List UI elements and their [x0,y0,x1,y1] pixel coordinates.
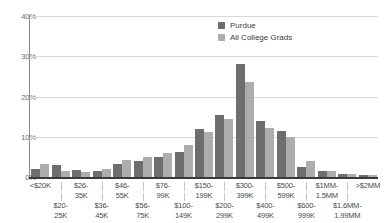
x-axis-tick-labels: <$20K$20-25K$26-35K$36-45K$46-55K$56-75K… [30,181,378,223]
bar[interactable] [184,145,193,177]
x-axis-tick-label: $600-999K [283,201,329,220]
x-axis-tick-label: >$2MM [345,181,385,191]
x-axis-tick-label: $1MM-1.5MM [304,181,350,200]
x-axis-tick-label-line: 45K [79,211,125,221]
bar[interactable] [102,169,111,177]
bar-group[interactable] [337,16,357,177]
legend-entry-purdue: Purdue [218,20,292,31]
x-axis-tick-label: $20-25K [38,201,84,220]
bar[interactable] [265,128,274,177]
x-axis-tick-label-line: $300- [222,181,268,191]
x-axis-tick-label: $500-599K [263,181,309,200]
bar[interactable] [306,161,315,177]
bar[interactable] [122,160,131,177]
x-axis-tick-label-line: $400- [242,201,288,211]
x-axis-tick-label-line: $36- [79,201,125,211]
bar-group[interactable] [71,16,91,177]
bar[interactable] [286,137,295,177]
x-axis-tick-label-line: 199K [181,191,227,201]
x-axis-tick-mark [347,193,348,201]
x-axis-tick-label-line: 35K [58,191,104,201]
bar[interactable] [81,172,90,177]
bar[interactable] [224,119,233,177]
bar[interactable] [338,174,347,177]
bar[interactable] [297,167,306,177]
bar[interactable] [93,171,102,177]
x-axis-tick-label: $46-55K [99,181,145,200]
bar[interactable] [277,131,286,177]
bar[interactable] [215,115,224,177]
x-axis-tick-label-line: >$2MM [345,181,385,191]
x-axis-tick-label-line: $200- [201,201,247,211]
legend-entry-all-college-grads: All College Grads [218,32,292,43]
bar[interactable] [256,121,265,177]
x-axis-tick-label-line: $150- [181,181,227,191]
x-axis-tick-label: $56-75K [120,201,166,220]
legend-swatch-icon [218,34,225,41]
x-axis-tick-label-line: $100- [161,201,207,211]
x-axis-baseline [29,177,378,179]
bar[interactable] [359,175,368,177]
x-axis-tick-label-line: $20- [38,201,84,211]
bar-group[interactable] [30,16,50,177]
legend-swatch-icon [218,22,225,29]
x-axis-tick-label: $100-149K [161,201,207,220]
bar[interactable] [195,129,204,177]
plot-area [30,16,378,177]
x-axis-tick-label-line: 75K [120,211,166,221]
bar-group[interactable] [296,16,316,177]
bar[interactable] [318,171,327,177]
bar[interactable] [154,157,163,177]
x-axis-tick-label-line: 149K [161,211,207,221]
x-axis-tick-label: $36-45K [79,201,125,220]
bar[interactable] [61,171,70,177]
bar-group[interactable] [50,16,70,177]
x-axis-tick-label: $26-35K [58,181,104,200]
bar[interactable] [236,64,245,177]
x-axis-tick-label-line: 499K [242,211,288,221]
bar[interactable] [327,171,336,177]
bar[interactable] [368,175,377,177]
x-axis-tick-label-line: $26- [58,181,104,191]
bar-group[interactable] [317,16,337,177]
bar-group[interactable] [112,16,132,177]
bar[interactable] [113,164,122,177]
bar[interactable] [52,165,61,177]
x-axis-tick-label: $1.6MM-1.99MM [324,201,370,220]
x-axis-tick-label-line: $76- [140,181,186,191]
x-axis-tick-label-line: $56- [120,201,166,211]
bar[interactable] [163,153,172,177]
x-axis-tick-label-line: 99K [140,191,186,201]
x-axis-tick-label-line: $1MM- [304,181,350,191]
bar-group[interactable] [153,16,173,177]
legend-label: All College Grads [230,33,292,42]
bar[interactable] [31,169,40,177]
x-axis-tick-label: $400-499K [242,201,288,220]
x-axis-tick-label-line: $46- [99,181,145,191]
x-axis-tick-label-line: 1.5MM [304,191,350,201]
bar[interactable] [204,132,213,177]
bar[interactable] [72,170,81,177]
x-axis-tick-label-line: $500- [263,181,309,191]
bar[interactable] [245,82,254,177]
x-axis-tick-label: $200-299K [201,201,247,220]
bar[interactable] [143,157,152,177]
x-axis-tick-label-line: 999K [283,211,329,221]
bar-group[interactable] [132,16,152,177]
x-axis-tick-label: $300-399K [222,181,268,200]
bar-group[interactable] [91,16,111,177]
bar[interactable] [347,174,356,177]
bar[interactable] [40,164,49,177]
x-axis-tick-label-line: <$20K [17,181,63,191]
bar-group[interactable] [173,16,193,177]
legend-label: Purdue [230,21,256,30]
x-axis-tick-label-line: 55K [99,191,145,201]
x-axis-tick-label-line: 599K [263,191,309,201]
bar-group[interactable] [194,16,214,177]
bar[interactable] [134,161,143,177]
bar[interactable] [175,152,184,177]
x-axis-tick-label-line: 399K [222,191,268,201]
bar-group[interactable] [358,16,378,177]
x-axis-tick-label-line: $1.6MM- [324,201,370,211]
